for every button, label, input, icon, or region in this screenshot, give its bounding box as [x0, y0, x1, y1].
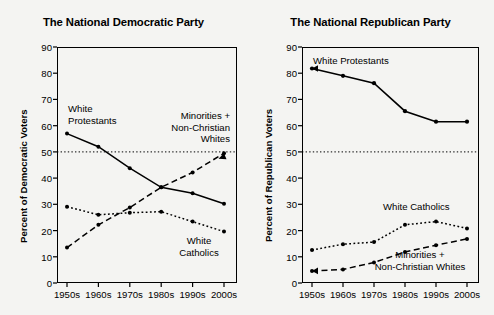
left-ytick-40: 40	[30, 173, 52, 184]
republican-party-chart-panel: The National Republican Party 90 80 70 6…	[247, 0, 494, 315]
left-ytick-80: 80	[30, 68, 52, 79]
right-ytick-0: 0	[275, 278, 297, 289]
left-x-ticks	[67, 283, 224, 287]
left-ytick-20: 20	[30, 225, 52, 236]
left-chart-title: The National Democratic Party	[0, 16, 247, 28]
right-ytick-20: 20	[275, 225, 297, 236]
right-chart-title: The National Republican Party	[247, 16, 494, 28]
right-x-ticks	[312, 283, 467, 287]
right-ytick-60: 60	[275, 120, 297, 131]
left-label-wc-line1: White	[187, 235, 212, 246]
right-ytick-70: 70	[275, 94, 297, 105]
right-label-min-line2: Non-Christian Whites	[375, 261, 466, 272]
right-ytick-90: 90	[275, 42, 297, 53]
right-label-white-catholics: White Catholics	[383, 201, 450, 213]
right-ytick-50: 50	[275, 146, 297, 157]
right-yaxis-title: Percent of Republican Voters	[263, 109, 274, 242]
left-ytick-90: 90	[30, 42, 52, 53]
left-ytick-0: 0	[30, 278, 52, 289]
right-ytick-80: 80	[275, 68, 297, 79]
right-label-minorities: Minorities + Non-Christian Whites	[363, 249, 477, 272]
left-ytick-50: 50	[30, 146, 52, 157]
left-label-white-catholics: White Catholics	[168, 235, 230, 258]
right-xtick-2000s: 2000s	[449, 289, 485, 300]
left-ytick-10: 10	[30, 251, 52, 262]
left-label-white-protestants: White Protestants	[68, 103, 117, 126]
left-label-minorities: Minorities + Non-Christian Whites	[152, 110, 230, 145]
left-label-min-line2: Non-Christian	[171, 122, 230, 133]
right-ytick-10: 10	[275, 251, 297, 262]
left-label-wp-line2: Protestants	[68, 115, 117, 126]
right-label-white-protestants: White Protestants	[313, 55, 389, 67]
right-label-min-line1: Minorities +	[395, 249, 444, 260]
left-yaxis-title: Percent of Democratic Voters	[18, 109, 29, 243]
left-label-wc-line2: Catholics	[179, 247, 218, 258]
left-xtick-2000s: 2000s	[206, 289, 242, 300]
left-ytick-30: 30	[30, 199, 52, 210]
right-plot-frame	[302, 47, 479, 283]
left-label-min-line1: Minorities +	[181, 110, 230, 121]
left-ytick-70: 70	[30, 94, 52, 105]
charts-container: The National Democratic Party 90 80 70 6…	[0, 0, 494, 315]
left-ytick-60: 60	[30, 120, 52, 131]
left-label-wp-line1: White	[68, 103, 93, 114]
democratic-party-chart-panel: The National Democratic Party 90 80 70 6…	[0, 0, 247, 315]
left-label-min-line3: Whites	[201, 133, 230, 144]
right-ytick-40: 40	[275, 173, 297, 184]
right-ytick-30: 30	[275, 199, 297, 210]
